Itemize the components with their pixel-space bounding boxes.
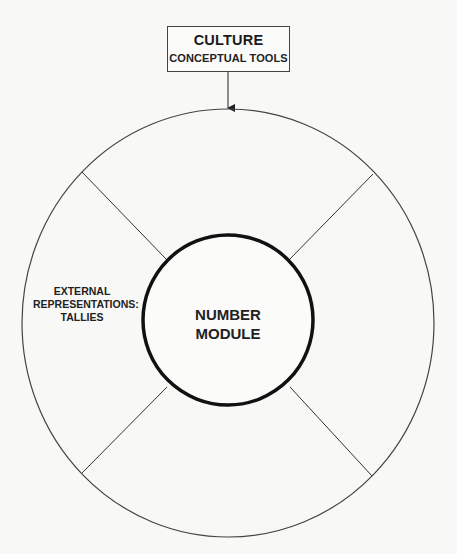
module-line-2: MODULE — [168, 324, 288, 343]
culture-subtitle: CONCEPTUAL TOOLS — [168, 52, 289, 64]
ext-line-2: REPRESENTATIONS: — [33, 298, 131, 311]
spoke-bottom-right — [290, 387, 372, 476]
spoke-top-left — [82, 172, 167, 260]
ext-line-3: TALLIES — [33, 311, 131, 324]
spoke-top-right — [288, 174, 373, 261]
culture-box: CULTURE CONCEPTUAL TOOLS — [167, 26, 290, 72]
module-line-1: NUMBER — [168, 305, 288, 324]
culture-title: CULTURE — [168, 32, 289, 48]
number-module-label: NUMBER MODULE — [168, 305, 288, 343]
spoke-bottom-left — [82, 387, 167, 473]
ext-line-1: EXTERNAL — [33, 285, 131, 298]
diagram-canvas — [0, 0, 457, 554]
external-representations-label: EXTERNAL REPRESENTATIONS: TALLIES — [33, 285, 131, 324]
